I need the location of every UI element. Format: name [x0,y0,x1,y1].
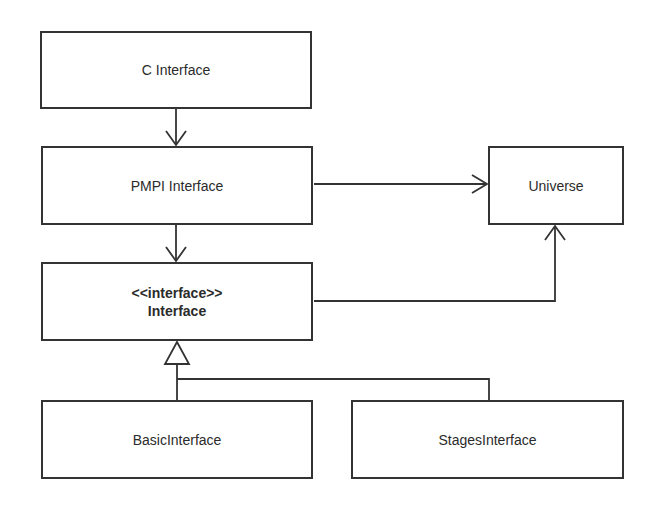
class-pmpi-interface-label: PMPI Interface [131,177,224,195]
class-universe-label: Universe [528,177,583,195]
class-c-interface-label: C Interface [142,61,210,79]
interface-stereotype-label: <<interface>> [131,284,222,302]
class-universe[interactable]: Universe [488,146,624,225]
edge-c-interface-to-pmpi-interface [166,109,186,145]
interface-interface[interactable]: <<interface>> Interface [41,262,313,341]
edge-interface-to-universe [314,226,565,301]
interface-name-label: Interface [148,302,206,320]
class-pmpi-interface[interactable]: PMPI Interface [41,146,313,225]
hollow-triangle-arrowhead-icon [165,342,189,364]
edge-pmpi-interface-to-interface [166,225,186,261]
class-stages-interface[interactable]: StagesInterface [351,400,624,479]
class-basic-interface[interactable]: BasicInterface [41,400,313,479]
edge-pmpi-interface-to-universe [314,175,487,193]
class-basic-interface-label: BasicInterface [133,431,222,449]
edge-realization-to-interface [165,342,489,400]
class-stages-interface-label: StagesInterface [438,431,536,449]
class-c-interface[interactable]: C Interface [40,31,312,109]
diagram-canvas: C Interface PMPI Interface Universe <<in… [0,0,656,505]
